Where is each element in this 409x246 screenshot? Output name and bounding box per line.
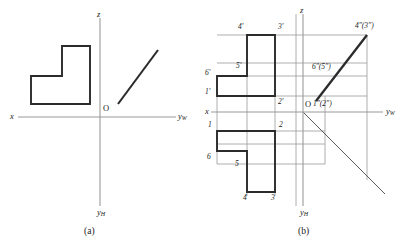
vertex-label-3-prime: 3' (278, 23, 283, 31)
axis-x-label-a: x (10, 112, 14, 121)
vertex-label-4-prime: 4' (238, 23, 243, 31)
vertex-label-6: 6 (207, 153, 211, 161)
axis-yh-label-a: yH (97, 208, 105, 217)
l-shaped-top-view-b (217, 131, 275, 192)
oblique-line-a (118, 50, 158, 104)
vertex-label-5: 5 (235, 160, 239, 168)
vertex-label-1-2-double-prime: 1″(2″) (313, 100, 332, 108)
vertex-label-4-3-double-prime: 4″(3″) (355, 22, 374, 30)
vertex-label-3: 3 (271, 194, 275, 202)
l-shaped-front-view-a (31, 46, 90, 104)
vertex-label-1-prime: 1' (205, 88, 210, 96)
axis-yh-label-b: yH (300, 208, 308, 217)
vertex-label-6-prime: 6' (205, 69, 210, 77)
vertex-label-4: 4 (243, 194, 247, 202)
axis-z-label-a: z (97, 10, 100, 19)
axis-z-label-b: z (300, 6, 303, 15)
axis-yw-label-a: yW (178, 112, 187, 121)
axis-yw-label-b: yW (386, 107, 395, 116)
origin-label-b: O (305, 100, 311, 109)
l-shaped-front-view-b (217, 35, 275, 96)
caption-a: (a) (84, 226, 95, 236)
origin-label-a: O (103, 104, 109, 113)
figure-panel-a: O x yW z yH (a) (0, 0, 205, 246)
vertex-label-6-5-double-prime: 6″(5″) (312, 63, 331, 71)
vertex-label-2-prime: 2' (278, 98, 283, 106)
vertex-label-1: 1 (208, 121, 212, 129)
axis-x-label-b: x (205, 107, 209, 116)
figure-panel-b: O x yW z yH 4' 3' 5' 6' 1' 2' 1 2 6 5 4 … (205, 0, 409, 246)
caption-b: (b) (298, 226, 309, 236)
vertex-label-2: 2 (279, 121, 283, 129)
vertex-label-5-prime: 5' (236, 62, 241, 70)
